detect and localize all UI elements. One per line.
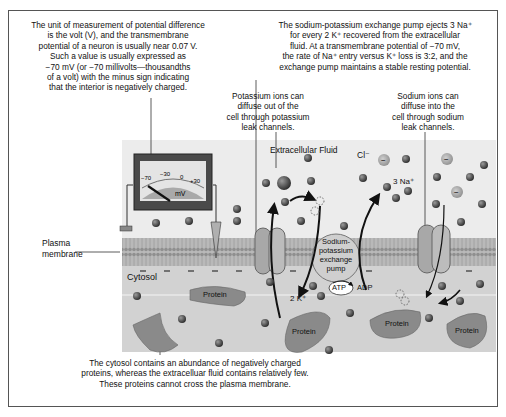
proteins-caption: The cytosol contains an abundance of neg…	[70, 358, 320, 389]
protein-label: Protein	[203, 290, 227, 301]
potassium-caption: Potassium ions can diffuse out of the ce…	[218, 91, 318, 133]
pump-label: Sodium- potassium exchange pump	[312, 237, 360, 273]
voltage-caption: The unit of measurement of potential dif…	[18, 20, 218, 93]
svg-text:+30: +30	[190, 178, 201, 184]
svg-text:−30: −30	[160, 171, 171, 177]
potassium-count-label: 2 K⁺	[290, 294, 306, 305]
sodium-caption: Sodium ions can diffuse into the cell th…	[378, 91, 478, 133]
extracellular-label: Extracellular Fluid	[270, 145, 338, 156]
sodium-leak-channel	[418, 225, 450, 273]
svg-text:−: −	[381, 156, 386, 165]
svg-text:−: −	[444, 155, 449, 164]
chloride-label: Cl⁻	[357, 150, 370, 161]
protein-label: Protein	[455, 326, 479, 337]
atp-label: ATP	[332, 283, 346, 294]
potassium-leak-channel	[255, 228, 285, 274]
svg-text:mV: mV	[175, 190, 186, 197]
plasma-membrane-label: Plasma membrane	[42, 238, 83, 259]
sodium-count-label: 3 Na⁺	[393, 177, 414, 188]
adp-label: ADP	[357, 283, 372, 294]
svg-text:−: −	[454, 188, 459, 197]
cytosol-label: Cytosol	[127, 272, 157, 283]
protein-label: Protein	[292, 327, 316, 338]
pump-caption: The sodium-potassium exchange pump eject…	[250, 20, 500, 72]
protein-label: Protein	[385, 319, 409, 330]
svg-text:−70: −70	[141, 175, 152, 181]
